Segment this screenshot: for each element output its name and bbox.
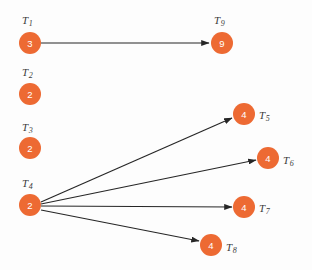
- node-value-label: 4: [265, 153, 270, 164]
- graph-edge: [41, 118, 232, 202]
- edges-layer: [41, 43, 256, 241]
- node-name-label: T1: [22, 14, 33, 28]
- graph-node[interactable]: 3T1: [19, 14, 41, 54]
- node-name-label: T8: [226, 241, 237, 255]
- graph-edge: [41, 160, 256, 204]
- graph-node[interactable]: 4T6: [257, 147, 294, 169]
- graph-node[interactable]: 9T9: [211, 14, 233, 54]
- node-name-label: T7: [259, 202, 271, 216]
- node-value-label: 2: [27, 89, 32, 100]
- node-name-label: T3: [22, 121, 33, 135]
- node-value-label: 2: [27, 200, 32, 211]
- graph-node[interactable]: 4T5: [233, 103, 270, 125]
- node-name-label: T5: [259, 109, 270, 123]
- node-value-label: 4: [241, 202, 246, 213]
- graph-node[interactable]: 2T4: [19, 177, 41, 216]
- node-name-label: T2: [22, 66, 33, 80]
- node-name-label: T4: [22, 177, 33, 191]
- nodes-layer: 3T12T22T32T49T94T54T64T74T8: [19, 14, 294, 256]
- graph-node[interactable]: 4T8: [200, 234, 237, 256]
- graph-node[interactable]: 2T3: [19, 121, 41, 159]
- graph-canvas: 3T12T22T32T49T94T54T64T74T8: [0, 0, 312, 270]
- graph-edge: [41, 206, 232, 207]
- dependency-graph: 3T12T22T32T49T94T54T64T74T8: [0, 0, 312, 270]
- node-value-label: 3: [27, 38, 32, 49]
- node-value-label: 4: [208, 240, 213, 251]
- node-value-label: 9: [219, 38, 224, 49]
- node-name-label: T9: [214, 14, 225, 28]
- graph-node[interactable]: 2T2: [19, 66, 41, 105]
- node-name-label: T6: [283, 154, 294, 168]
- node-value-label: 2: [27, 143, 32, 154]
- node-value-label: 4: [241, 109, 246, 120]
- graph-node[interactable]: 4T7: [233, 196, 271, 218]
- graph-edge: [41, 210, 199, 241]
